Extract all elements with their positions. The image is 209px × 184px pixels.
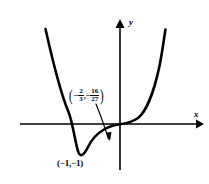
critical-point-label: ( − 2 3 , − 16 27 ) xyxy=(68,88,105,103)
y-axis-label: y xyxy=(129,18,133,27)
fraction-denominator: 27 xyxy=(90,95,99,103)
x-axis-label: x xyxy=(194,110,199,119)
label-close-paren: ) xyxy=(100,89,104,103)
fraction-numerator: 16 xyxy=(90,88,99,95)
label-open-paren: ( xyxy=(69,89,73,103)
minimum-point-label: (−1,−1) xyxy=(57,159,83,168)
fraction-sixteen-twentysevenths: 16 27 xyxy=(90,88,99,103)
